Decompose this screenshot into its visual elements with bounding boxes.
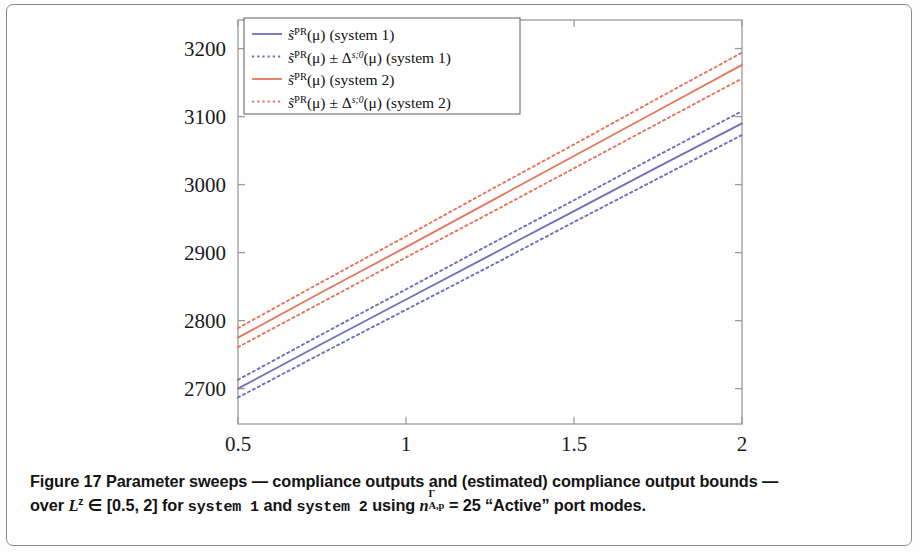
legend-entry-label: s̃PR(μ) ± Δs;0(μ) (system 1) [288,48,451,67]
caption-n-subscript-ap: A,p [428,499,444,514]
series-line [238,135,742,398]
caption-system-1: system 1 [188,499,259,516]
x-axis-title: L [483,460,496,462]
caption-n-symbol: nΓA,p [420,494,429,517]
y-axis-tick-label: 2700 [184,377,226,401]
figure-caption: Figure 17 Parameter sweeps — compliance … [30,470,890,518]
caption-line-1: Figure 17 Parameter sweeps — compliance … [30,472,778,490]
legend-entry-label: s̃PR(μ) ± Δs;0(μ) (system 2) [288,93,451,112]
plot-figure-area: 2700280029003000310032000.511.52L s̃PR(μ… [0,0,920,462]
y-axis-tick-label: 3100 [184,105,226,129]
y-axis-tick-label: 2900 [184,241,226,265]
y-axis-tick-label: 2800 [184,309,226,333]
x-axis-tick-label: 1.5 [561,432,587,456]
caption-line-2: over Lz ∈ [0.5, 2] for system 1 and syst… [30,496,646,514]
caption-using: using [368,496,420,514]
caption-system-2: system 2 [297,499,368,516]
caption-Lz-symbol: L [68,496,78,515]
compliance-output-line-chart: 2700280029003000310032000.511.52L s̃PR(μ… [0,0,920,462]
x-axis-tick-label: 0.5 [225,432,251,456]
y-axis-tick-label: 3200 [184,37,226,61]
caption-n-letter: n [420,496,429,515]
caption-over: over [30,496,68,514]
caption-equals-clause: = 25 “Active” port modes. [444,496,645,514]
plot-legend: s̃PR(μ) (system 1)s̃PR(μ) ± Δs;0(μ) (sys… [244,18,520,114]
series-line [238,78,742,347]
series-line [238,111,742,380]
x-axis-tick-label: 1 [401,432,412,456]
series-line [238,123,742,388]
caption-and: and [259,496,297,514]
figure-page: 2700280029003000310032000.511.52L s̃PR(μ… [0,0,920,552]
x-axis-tick-label: 2 [737,432,748,456]
y-axis-tick-label: 3000 [184,173,226,197]
caption-range: ∈ [0.5, 2] for [83,496,187,514]
